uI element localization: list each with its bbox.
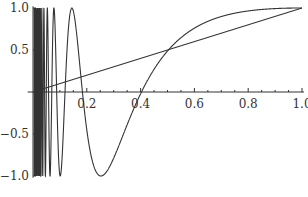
y-tick-label: 0.5 [10,43,29,57]
x-tick-label: 0.8 [239,97,258,111]
y-tick-label: −0.5 [0,127,29,141]
line-y-equals-x [33,8,302,92]
y-tick-label: 1.0 [10,1,29,15]
y-tick-label: −1.0 [0,169,29,183]
axes [28,6,304,177]
line-chart: 0.20.40.60.81.01.00.5−0.5−1.0 [0,0,308,197]
x-tick-label: 1.0 [292,97,308,111]
x-tick-label: 0.6 [185,97,204,111]
x-tick-label: 0.2 [77,97,96,111]
